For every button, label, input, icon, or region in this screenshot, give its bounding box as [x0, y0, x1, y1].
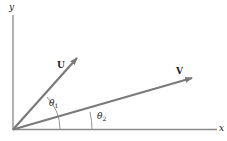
theta2-label: θ2	[97, 112, 106, 121]
vector-u-label: U	[57, 61, 65, 70]
theta2-arc	[90, 112, 92, 130]
x-axis-label: x	[219, 124, 224, 133]
diagram-canvas	[0, 0, 227, 141]
theta1-subscript: 1	[54, 102, 58, 109]
theta2-subscript: 2	[102, 115, 106, 122]
vector-diagram: y x U V θ1 θ2	[0, 0, 227, 141]
vector-u	[13, 58, 77, 130]
theta1-label: θ1	[49, 99, 58, 108]
vector-v-label: V	[176, 67, 183, 76]
y-axis-label: y	[9, 3, 14, 12]
